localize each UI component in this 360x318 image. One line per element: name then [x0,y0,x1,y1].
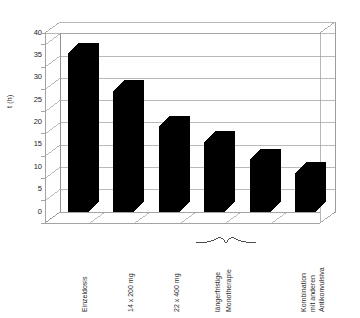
category-label-kombination-line1: Kombination [300,273,309,312]
category-label-laengerfristige: längerfristige [214,272,223,312]
category-label-22x400mg: 22 x 400 mg [173,273,182,312]
bar-einzeldosis [68,43,99,213]
category-label-kombination-line2: mit anderen [309,275,318,312]
bar-monotherapie [250,149,281,213]
bar-22x400mg [159,116,190,213]
category-label-14x200mg: 14 x 200 mg [127,273,136,312]
category-label-monotherapie: Monotherapie [225,269,234,312]
category-label-einzeldosis: Einzeldosis [81,277,90,312]
plot-area [0,0,360,318]
bar-14x200mg [113,80,144,212]
bar-kombination [295,162,326,212]
group-brace-icon [196,238,256,243]
chart-figure: t (h) 40 35 30 25 20 15 10 5 0 [0,0,360,318]
category-label-kombination-line3: Antikonvulsiva [318,267,327,312]
bar-laengerfristige [204,131,235,212]
